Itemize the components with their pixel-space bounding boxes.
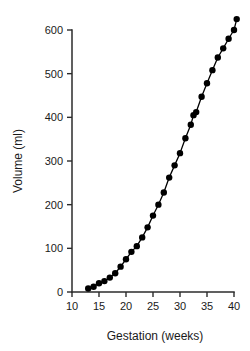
series-data-point [209, 67, 215, 73]
series-data-point [188, 122, 194, 128]
y-tick-label: 600 [45, 24, 63, 36]
x-axis-ticks: 10152025303540 [66, 292, 240, 312]
x-tick-label: 35 [201, 300, 213, 312]
volume-gestation-line-chart: 0100200300400500600 10152025303540 Gesta… [0, 0, 250, 351]
x-tick-label: 10 [66, 300, 78, 312]
chart-figure: 0100200300400500600 10152025303540 Gesta… [0, 0, 250, 351]
series-data-point [231, 27, 237, 33]
series-data-point [90, 284, 96, 290]
y-tick-label: 400 [45, 111, 63, 123]
y-axis-ticks: 0100200300400500600 [45, 24, 72, 298]
series-data-point [144, 224, 150, 230]
series-data-point [234, 16, 240, 22]
series-data-point [182, 135, 188, 141]
series-data-point [204, 80, 210, 86]
series-data-point [112, 270, 118, 276]
y-tick-label: 300 [45, 155, 63, 167]
series-data-point [220, 45, 226, 51]
series-data-point [161, 189, 167, 195]
series-data-point [128, 249, 134, 255]
series-data-point [166, 174, 172, 180]
y-tick-label: 100 [45, 242, 63, 254]
data-series [85, 16, 240, 292]
x-tick-label: 25 [147, 300, 159, 312]
series-line [88, 19, 237, 288]
y-axis-title: Volume (ml) [11, 129, 25, 193]
series-data-point [101, 278, 107, 284]
y-tick-label: 0 [57, 286, 63, 298]
series-data-point [155, 201, 161, 207]
series-data-point [134, 243, 140, 249]
x-tick-label: 20 [120, 300, 132, 312]
x-tick-label: 30 [174, 300, 186, 312]
series-data-point [150, 212, 156, 218]
series-data-point [107, 274, 113, 280]
series-data-point [215, 54, 221, 60]
x-axis-title: Gestation (weeks) [107, 329, 204, 343]
series-data-point [123, 256, 129, 262]
y-tick-label: 200 [45, 199, 63, 211]
x-tick-label: 15 [93, 300, 105, 312]
series-data-point [198, 94, 204, 100]
series-data-point [177, 150, 183, 156]
series-data-point [171, 162, 177, 168]
x-tick-label: 40 [228, 300, 240, 312]
series-data-point [117, 263, 123, 269]
y-tick-label: 500 [45, 68, 63, 80]
series-data-point [193, 109, 199, 115]
series-data-point [139, 234, 145, 240]
series-data-point [225, 36, 231, 42]
